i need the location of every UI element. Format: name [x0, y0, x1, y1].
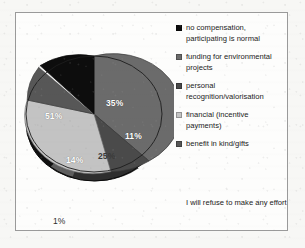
slice-label-1: 1%: [53, 216, 65, 226]
slice-label-25: 25%: [98, 151, 115, 161]
legend-item-label: no compensation, participating is normal: [186, 23, 286, 44]
legend-item-funding-environmental[interactable]: funding for environmental projects: [176, 52, 288, 73]
slice-label-11: 11%: [125, 131, 142, 141]
chart-legend: no compensation, participating is normal…: [176, 23, 288, 158]
legend-swatch-icon: [176, 112, 182, 118]
legend-item-benefit-in-kind[interactable]: benefit in kind/gifts: [176, 139, 288, 150]
pie-chart: 35% 11% 25% 14% 51%: [22, 43, 174, 193]
legend-swatch-icon: [176, 83, 182, 89]
legend-swatch-icon: [176, 141, 182, 147]
legend-item-label: funding for environmental projects: [186, 52, 286, 73]
slice-label-35: 35%: [106, 98, 123, 108]
legend-note-refuse: I will refuse to make any effort: [186, 197, 294, 208]
legend-item-label: financial (incentive payments): [186, 110, 286, 131]
legend-item-financial-incentive[interactable]: financial (incentive payments): [176, 110, 288, 131]
legend-item-label: personal recognition/valorisation: [186, 81, 286, 102]
legend-swatch-icon: [176, 25, 182, 31]
legend-item-personal-recognition[interactable]: personal recognition/valorisation: [176, 81, 288, 102]
legend-item-label: benefit in kind/gifts: [186, 139, 249, 150]
legend-swatch-icon: [176, 54, 182, 60]
chart-frame: 35% 11% 25% 14% 51% 1% no compensation, …: [15, 12, 288, 231]
slice-label-14: 14%: [66, 155, 83, 165]
slice-label-51: 51%: [45, 111, 62, 121]
pie-plot-area: 35% 11% 25% 14% 51% 1%: [16, 13, 184, 232]
legend-item-no-compensation[interactable]: no compensation, participating is normal: [176, 23, 288, 44]
